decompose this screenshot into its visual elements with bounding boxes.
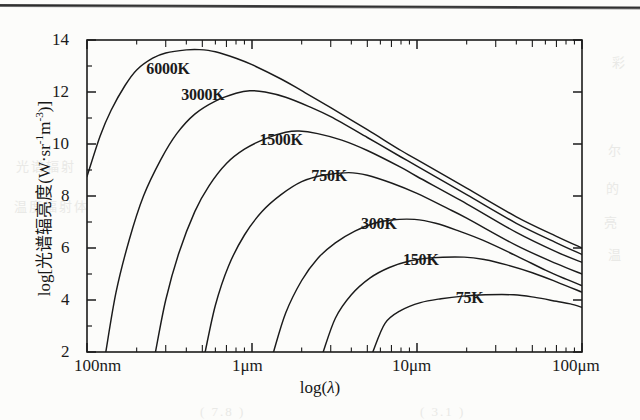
curve-750k: [205, 173, 582, 352]
y-axis-title-units-close: )]: [35, 101, 54, 112]
y-axis-title-sup2: -3: [33, 112, 45, 121]
curve-150k: [323, 257, 582, 352]
curve-label-750k: 750K: [311, 167, 347, 185]
y-tick-label: 4: [61, 290, 70, 310]
curve-label-300k: 300K: [361, 215, 397, 233]
blackbody-spectral-radiance-chart: 14 12 10 8 6 4 2 100nm 1μm 10μm 100μm lo…: [0, 0, 640, 420]
x-axis-title-suffix: ): [335, 378, 341, 397]
y-axis-title-units-open: (W·sr: [35, 144, 54, 184]
y-axis-title-unit-m: m: [35, 122, 54, 135]
curve-3000k: [106, 91, 582, 352]
y-axis-title-chinese: 光谱辐亮度: [35, 184, 54, 269]
curves-group: [87, 49, 582, 352]
y-tick-label: 6: [61, 238, 70, 258]
x-axis-title-lambda: λ: [327, 378, 334, 397]
curve-label-6000k: 6000K: [146, 60, 189, 78]
curve-label-150k: 150K: [403, 251, 439, 269]
curve-300k: [274, 219, 582, 352]
x-tick-label: 100μm: [552, 356, 600, 376]
curve-label-3000k: 3000K: [181, 86, 224, 104]
y-tick-label: 10: [52, 134, 69, 154]
y-tick-label: 14: [52, 30, 69, 50]
x-tick-label: 100nm: [74, 356, 121, 376]
x-tick-label: 1μm: [232, 356, 263, 376]
x-tick-label: 10μm: [392, 356, 431, 376]
x-axis-title: log(λ): [0, 378, 640, 398]
curve-label-75k: 75K: [456, 289, 484, 307]
y-axis-title: log[光谱辐亮度(W·sr-1m-3)]: [30, 49, 55, 349]
y-axis-title-prefix: log[: [35, 269, 54, 296]
y-tick-label: 8: [61, 186, 70, 206]
curve-label-1500k: 1500K: [259, 131, 302, 149]
y-axis-title-sup1: -1: [33, 135, 45, 144]
axis-ticks: [87, 40, 582, 352]
axes-frame: [87, 40, 582, 352]
y-tick-label: 12: [52, 82, 69, 102]
scanned-page: 彩尔的亮温光谱辐射温度辐射体( 7.8 )( 3.1 ) 14 12 10 8 …: [0, 0, 640, 420]
curve-1500k: [155, 131, 582, 352]
y-tick-label: 2: [61, 342, 70, 362]
x-axis-title-prefix: log(: [300, 378, 327, 397]
